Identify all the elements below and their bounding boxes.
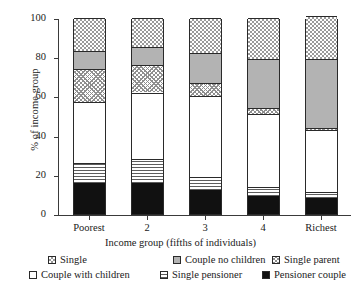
- bar-2: [131, 19, 164, 215]
- y-tick-mark: [54, 19, 59, 20]
- segment-single-pensioner: [190, 177, 221, 191]
- y-tick-label: 80: [6, 52, 46, 63]
- legend-label: Single parent: [284, 255, 340, 266]
- segment-single-parent: [132, 65, 163, 92]
- segment-couple-no-children: [306, 59, 337, 128]
- bar-3: [189, 19, 222, 215]
- legend-swatch-single-icon: [48, 256, 56, 264]
- y-tick-mark: [54, 58, 59, 59]
- segment-single-pensioner: [248, 187, 279, 197]
- segment-pensioner-couple: [132, 183, 163, 214]
- segment-single: [74, 18, 105, 51]
- segment-pensioner-couple: [74, 183, 105, 214]
- y-axis-line: [58, 19, 59, 215]
- segment-single-pensioner: [74, 163, 105, 183]
- segment-couple-with-children: [306, 130, 337, 193]
- segment-couple-no-children: [132, 47, 163, 65]
- x-tick-mark: [89, 215, 90, 220]
- legend-swatch-single-pensioner-icon: [160, 271, 168, 279]
- y-tick-mark: [54, 215, 59, 216]
- legend-swatch-couple-with-children-icon: [29, 271, 37, 279]
- legend-label: Single: [60, 255, 87, 266]
- legend-label: Pensioner couple: [274, 270, 346, 281]
- segment-couple-with-children: [248, 114, 279, 187]
- segment-single-parent: [74, 69, 105, 102]
- segment-single: [248, 18, 279, 59]
- y-tick-label: 20: [6, 170, 46, 181]
- segment-single: [132, 18, 163, 47]
- x-axis-line: [54, 215, 351, 216]
- legend-swatch-couple-no-children-icon: [173, 256, 181, 264]
- stacked-bar-chart-figure: % of income group 020406080100 Poorest23…: [0, 0, 361, 298]
- segment-couple-with-children: [74, 102, 105, 163]
- legend-swatch-pensioner-couple-icon: [262, 271, 270, 279]
- segment-couple-no-children: [248, 59, 279, 108]
- y-tick-label: 40: [6, 131, 46, 142]
- y-tick-label: 0: [6, 209, 46, 220]
- segment-couple-with-children: [190, 96, 221, 176]
- legend-row-1: SingleCouple no childrenSingle parent: [0, 255, 361, 270]
- segment-couple-with-children: [132, 93, 163, 160]
- segment-single-parent: [306, 128, 337, 130]
- segment-single-parent: [248, 108, 279, 114]
- segment-couple-no-children: [74, 51, 105, 69]
- legend-item-single-parent[interactable]: Single parent: [272, 255, 340, 266]
- legend-label: Couple no children: [185, 255, 265, 266]
- legend-item-pensioner-couple[interactable]: Pensioner couple: [262, 270, 346, 281]
- legend-item-couple-with-children[interactable]: Couple with children: [29, 270, 130, 281]
- x-tick-mark: [147, 215, 148, 220]
- segment-pensioner-couple: [306, 198, 337, 214]
- segment-single-parent: [190, 83, 221, 97]
- y-tick-mark: [54, 137, 59, 138]
- y-tick-mark: [54, 176, 59, 177]
- x-tick-mark: [263, 215, 264, 220]
- chart-legend: SingleCouple no childrenSingle parent Co…: [0, 255, 361, 285]
- legend-label: Couple with children: [41, 270, 130, 281]
- x-tick-label-richest: Richest: [286, 222, 356, 233]
- legend-item-single[interactable]: Single: [48, 255, 87, 266]
- legend-row-2: Couple with childrenSingle pensionerPens…: [0, 270, 361, 285]
- legend-item-couple-no-children[interactable]: Couple no children: [173, 255, 265, 266]
- y-tick-label: 60: [6, 91, 46, 102]
- segment-pensioner-couple: [248, 196, 279, 214]
- segment-couple-no-children: [190, 53, 221, 82]
- segment-single-pensioner: [132, 159, 163, 183]
- bar-4: [247, 19, 280, 215]
- segment-single-pensioner: [306, 192, 337, 198]
- x-axis-title: Income group (fifths of individuals): [0, 237, 361, 248]
- segment-single: [190, 18, 221, 53]
- y-tick-label: 100: [6, 13, 46, 24]
- bar-poorest: [73, 19, 106, 215]
- x-tick-mark: [321, 215, 322, 220]
- legend-swatch-single-parent-icon: [272, 256, 280, 264]
- plot-area: 020406080100 Poorest234Richest: [58, 19, 348, 215]
- segment-single: [306, 16, 337, 59]
- y-tick-mark: [54, 97, 59, 98]
- bar-richest: [305, 19, 338, 215]
- legend-item-single-pensioner[interactable]: Single pensioner: [160, 270, 242, 281]
- legend-label: Single pensioner: [172, 270, 242, 281]
- segment-pensioner-couple: [190, 190, 221, 214]
- x-tick-mark: [205, 215, 206, 220]
